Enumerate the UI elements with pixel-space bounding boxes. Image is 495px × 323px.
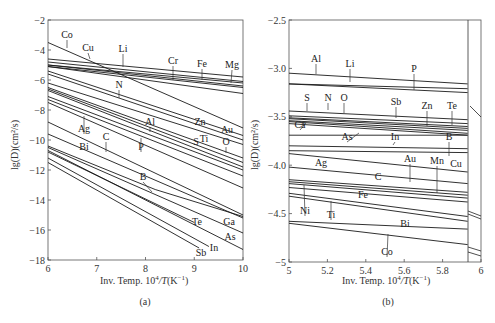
label-li: Li bbox=[346, 58, 355, 69]
label-bi: Bi bbox=[400, 218, 410, 229]
series-line-b bbox=[289, 151, 468, 153]
label-ag: Ag bbox=[315, 157, 327, 168]
series-line-c bbox=[48, 122, 243, 215]
label-as: As bbox=[224, 231, 235, 242]
y-tick-label: −16 bbox=[29, 225, 45, 236]
x-tick-label: 8 bbox=[143, 263, 148, 274]
label-te: Te bbox=[192, 216, 202, 227]
panel-b-break-stubs bbox=[468, 106, 481, 256]
label-ca: Ca bbox=[294, 119, 306, 130]
series-line-ag bbox=[48, 100, 243, 177]
panel-a-x-ticks: 678910 bbox=[46, 257, 249, 274]
y-tick-label: −3.5 bbox=[268, 111, 286, 122]
panel-b: −2.5−3.0−3.5−4.0−4.5−5 55.25.45.65.86 Al… bbox=[249, 15, 484, 309]
label-as: As bbox=[341, 131, 352, 142]
label-bi: Bi bbox=[79, 141, 89, 152]
x-tick-label: 10 bbox=[238, 263, 248, 274]
label-au: Au bbox=[221, 124, 233, 135]
label-co: Co bbox=[381, 246, 393, 257]
y-tick-label: −4 bbox=[34, 45, 45, 56]
label-b: B bbox=[446, 131, 453, 142]
y-tick-label: −4.5 bbox=[268, 208, 286, 219]
label-ag: Ag bbox=[78, 123, 90, 134]
x-tick-label: 6 bbox=[46, 263, 51, 274]
panel-b-caption: (b) bbox=[382, 296, 394, 308]
label-leader-line bbox=[88, 53, 90, 59]
series-line-bi bbox=[289, 221, 468, 229]
y-tick-label: −18 bbox=[29, 255, 45, 266]
x-tick-label: 5.2 bbox=[321, 265, 334, 276]
label-ti: Ti bbox=[200, 133, 209, 144]
label-leader-line bbox=[231, 70, 232, 83]
label-leader-line bbox=[143, 182, 152, 192]
series-line-ga bbox=[48, 148, 243, 234]
series-line-sb bbox=[48, 163, 199, 249]
y-tick-label: −5 bbox=[275, 257, 286, 268]
label-mg: Mg bbox=[225, 59, 239, 70]
panel-a-plot-area bbox=[48, 20, 243, 260]
label-au: Au bbox=[404, 153, 416, 164]
series-line-in bbox=[289, 146, 468, 149]
label-c: C bbox=[103, 131, 110, 142]
panel-b-y-axis-label: lg(D)(cm²/s) bbox=[249, 120, 261, 170]
panel-a: −2−4−6−8−10−12−14−16−18 678910 CoCuLiCrF… bbox=[9, 15, 248, 309]
label-mn: Mn bbox=[430, 155, 444, 166]
panel-a-inline-labels: CoCuLiCrFeMgNAlZnAuAgCPSTiOBiBTeGaAsInSb bbox=[61, 29, 239, 258]
panel-a-series-lines bbox=[48, 43, 243, 250]
label-fe: Fe bbox=[197, 58, 208, 69]
x-tick-label: 9 bbox=[192, 263, 197, 274]
label-p: P bbox=[138, 141, 144, 152]
label-n: N bbox=[115, 79, 122, 90]
label-al: Al bbox=[145, 116, 155, 127]
x-tick-label: 6 bbox=[479, 265, 484, 276]
series-line-ni bbox=[289, 193, 468, 216]
label-te: Te bbox=[447, 100, 457, 111]
series-line-co bbox=[289, 223, 468, 244]
label-al: Al bbox=[311, 53, 321, 64]
label-s: S bbox=[193, 136, 199, 147]
series-line-in bbox=[48, 158, 209, 247]
y-tick-label: −12 bbox=[29, 165, 45, 176]
label-o: O bbox=[222, 136, 229, 147]
y-tick-label: −2.5 bbox=[268, 15, 286, 26]
label-cr: Cr bbox=[168, 55, 179, 66]
series-line-li bbox=[48, 62, 243, 82]
label-in: In bbox=[210, 242, 218, 253]
label-sb: Sb bbox=[391, 96, 402, 107]
series-line-n bbox=[48, 83, 243, 145]
label-fe: Fe bbox=[358, 189, 369, 200]
diffusion-chart: −2−4−6−8−10−12−14−16−18 678910 CoCuLiCrF… bbox=[0, 0, 495, 323]
x-tick-label: 5.8 bbox=[436, 265, 449, 276]
label-b: B bbox=[140, 171, 147, 182]
panel-b-inline-labels: AlLiPSNOSbZnTeCaAsInBAgCuAuMnCFeNiTiBiCo bbox=[294, 53, 461, 257]
y-tick-label: −3.0 bbox=[268, 63, 286, 74]
x-tick-label: 7 bbox=[94, 263, 99, 274]
series-line-al bbox=[289, 73, 468, 84]
series-line-s bbox=[289, 111, 468, 120]
label-o: O bbox=[340, 92, 347, 103]
y-tick-label: −4.0 bbox=[268, 160, 286, 171]
y-tick-label: −10 bbox=[29, 135, 45, 146]
label-cu: Cu bbox=[450, 158, 462, 169]
panel-a-y-axis-label: lg(D)(cm²/s) bbox=[9, 120, 21, 170]
label-cu: Cu bbox=[82, 42, 94, 53]
series-line-c bbox=[289, 182, 468, 196]
panel-b-x-ticks: 55.25.45.65.86 bbox=[287, 259, 484, 276]
y-tick-label: −6 bbox=[34, 75, 45, 86]
label-ti: Ti bbox=[327, 209, 336, 220]
label-s: S bbox=[304, 92, 310, 103]
panel-a-x-axis-label: Inv. Temp. 104/T(K−1) bbox=[100, 274, 188, 287]
label-co: Co bbox=[61, 29, 73, 40]
label-leader-line bbox=[393, 142, 395, 145]
label-sb: Sb bbox=[196, 247, 207, 258]
x-tick-label: 5 bbox=[287, 265, 292, 276]
label-in: In bbox=[391, 131, 399, 142]
label-li: Li bbox=[119, 43, 128, 54]
y-tick-label: −14 bbox=[29, 195, 45, 206]
panel-b-x-axis-label: Inv. Temp. 104/T(K−1) bbox=[342, 274, 430, 287]
y-tick-label: −2 bbox=[34, 15, 45, 26]
panel-b-y-ticks: −2.5−3.0−3.5−4.0−4.5−5 bbox=[268, 15, 292, 268]
series-line-as bbox=[48, 151, 243, 250]
label-c: C bbox=[375, 171, 382, 182]
y-tick-label: −8 bbox=[34, 105, 45, 116]
